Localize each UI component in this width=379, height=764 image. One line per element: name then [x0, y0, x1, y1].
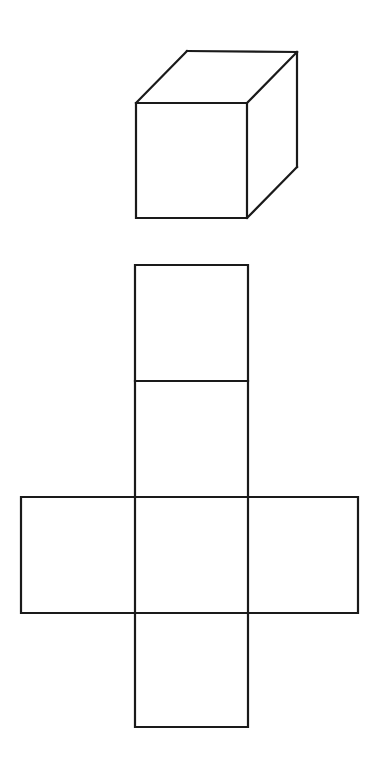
- figure-container: [0, 0, 379, 764]
- net-square-upper-middle: [135, 381, 248, 497]
- cube-top-back-edge: [187, 51, 297, 52]
- net-square-top: [135, 265, 248, 381]
- net-square-left: [21, 497, 135, 613]
- net-square-center: [135, 497, 248, 613]
- cube-and-net-diagram: [0, 0, 379, 764]
- net-square-bottom: [135, 613, 248, 727]
- cube-face-front: [136, 103, 247, 218]
- net-square-right: [248, 497, 358, 613]
